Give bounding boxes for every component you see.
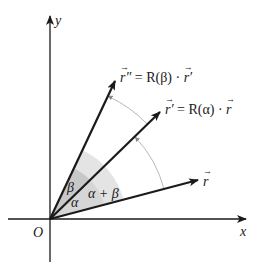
- vector-r-prime-rhs-vector: r: [226, 103, 231, 117]
- arc-rotation-alpha: [136, 138, 165, 190]
- angle-beta-label: β: [67, 181, 74, 195]
- y-axis-label: y: [55, 14, 61, 28]
- vector-r-double-prime-label: r″ = R(β) · r′: [120, 71, 192, 85]
- vector-r-symbol: r: [203, 175, 208, 189]
- angle-sum-label: α + β: [88, 187, 119, 201]
- vector-r-double-prime-equation: = R(β) ·: [135, 70, 184, 85]
- origin-label: O: [33, 226, 43, 240]
- x-axis-label: x: [240, 225, 246, 239]
- vector-r-double-prime-rhs-vector: r′: [184, 71, 193, 85]
- arc-rotation-beta: [109, 96, 148, 124]
- angle-alpha-label: α: [71, 196, 78, 210]
- vector-r-prime-equation: = R(α) ·: [177, 102, 226, 117]
- vector-r-label: r: [203, 175, 208, 189]
- vector-r-prime-symbol: r′: [165, 103, 174, 117]
- rotation-diagram: y x O r r′ = R(α) · r r″ = R(β) · r′ β α…: [0, 0, 258, 266]
- vector-r-double-prime-symbol: r″: [120, 71, 131, 85]
- vector-r-prime-label: r′ = R(α) · r: [165, 103, 232, 117]
